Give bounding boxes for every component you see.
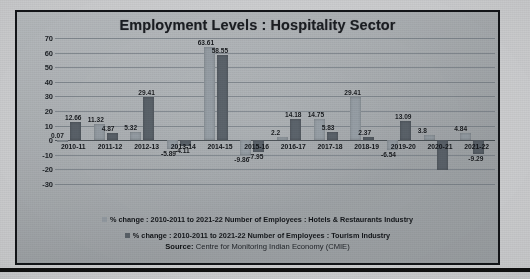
bar-group: 2.214.182016-17 [275,38,312,184]
bar-2016-17-series2 [290,119,301,140]
bar-value-label: 29.41 [344,89,361,96]
source-note: Source: Centre for Monitoring Indian Eco… [17,242,498,251]
legend-label-series1: % change : 2010-2011 to 2021-22 Number o… [110,215,413,224]
bar-group: 63.6158.552014-15 [202,38,239,184]
source-prefix: Source: [165,242,193,251]
bar-2014-15-series2 [217,55,228,140]
bar-value-label: 5.83 [322,124,335,131]
bar-group: 4.84-9.292021-22 [458,38,495,184]
bar-value-label: 14.18 [285,111,302,118]
bar-2010-11-series1 [57,140,68,142]
bar-2011-12-series2 [107,133,118,140]
chart-frame: Employment Levels : Hospitality Sector 7… [15,10,500,265]
bar-2021-22-series1 [460,133,471,140]
y-tick-label: 40 [31,77,53,86]
bar-2018-19-series2 [363,137,374,140]
bar-2014-15-series1 [204,47,215,140]
y-tick-label: 30 [31,92,53,101]
bar-value-label: 3.8 [418,127,427,134]
y-tick-label: 10 [31,121,53,130]
bar-group: 0.0712.662010-11 [55,38,92,184]
bar-value-label: -5.89 [161,150,176,157]
bar-group: 5.3229.412012-13 [128,38,165,184]
bar-value-label: 14.75 [308,111,325,118]
bar-group: 14.755.832017-18 [312,38,349,184]
page-bottom-rule [0,268,530,272]
bar-2020-21-series1 [424,135,435,141]
y-tick-label: 70 [31,34,53,43]
bar-value-label: 0.07 [51,132,64,139]
bar-value-label: 4.84 [454,125,467,132]
bar-2012-13-series1 [130,132,141,140]
bar-2010-11-series2 [70,122,81,140]
x-tick-label: 2021-22 [455,143,498,150]
bar-value-label: 63.61 [198,39,215,46]
y-tick-label: -30 [31,180,53,189]
bar-value-label: 29.41 [138,89,155,96]
source-text: Centre for Monitoring Indian Economy (CM… [196,242,350,251]
y-tick-label: 0 [31,136,53,145]
bar-value-label: 2.37 [358,129,371,136]
legend-swatch-icon-series2 [125,233,130,238]
legend-item-tourism: % change : 2010-2011 to 2021-22 Number o… [17,231,498,240]
bar-value-label: 2.2 [271,129,280,136]
bar-value-label: 11.32 [88,116,104,123]
bar-value-label: -9.29 [468,155,483,162]
bar-value-label: -7.95 [248,153,263,160]
y-tick-label: -10 [31,150,53,159]
gridline--30 [55,184,495,185]
legend-swatch-icon-series1 [102,217,107,222]
bar-group: 11.324.872011-12 [92,38,129,184]
bar-2017-18-series2 [327,132,338,141]
y-tick-label: 20 [31,107,53,116]
y-tick-label: -20 [31,165,53,174]
bar-value-label: 12.66 [65,114,82,121]
bar-2012-13-series2 [143,97,154,140]
y-tick-label: 60 [31,48,53,57]
y-tick-label: 50 [31,63,53,72]
bar-2019-20-series2 [400,121,411,140]
bar-value-label: 58.55 [212,47,229,54]
bar-group: -5.89-4.112013-14 [165,38,202,184]
legend-label-series2: % change : 2010-2011 to 2021-22 Number o… [133,231,390,240]
bar-group: 29.412.372018-19 [348,38,385,184]
y-axis: 706050403020100-10-20-30 [29,38,53,184]
bar-group: -6.5413.092019-20 [385,38,422,184]
chart-page: Employment Levels : Hospitality Sector 7… [0,0,530,279]
bar-2016-17-series1 [277,137,288,140]
bar-group: 3.82020-21 [422,38,459,184]
bar-value-label: -6.54 [381,151,396,158]
bar-value-label: 4.87 [102,125,115,132]
bar-group: -9.86-7.952015-16 [238,38,275,184]
chart-title: Employment Levels : Hospitality Sector [17,17,498,33]
plot-area: 0.0712.662010-1111.324.872011-125.3229.4… [55,38,495,184]
bar-value-label: 13.09 [395,113,412,120]
bar-value-label: 5.32 [124,124,137,131]
legend-item-hotels-restaurants: % change : 2010-2011 to 2021-22 Number o… [17,215,498,224]
